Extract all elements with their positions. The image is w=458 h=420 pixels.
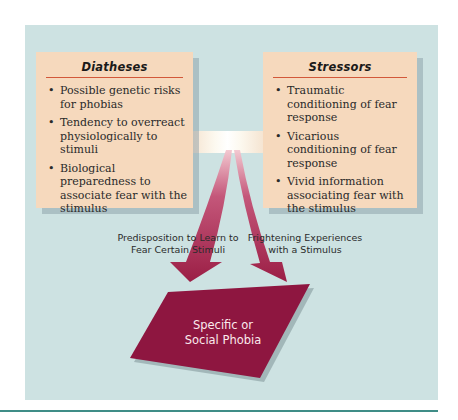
left-arrow-label: Predisposition to Learn to Fear Certain … xyxy=(108,232,248,256)
arrows-and-outcome-shapes xyxy=(0,0,458,420)
outcome-line-1: Specific or xyxy=(168,318,278,333)
left-arrow-icon xyxy=(170,150,232,282)
bottom-divider xyxy=(0,410,438,412)
right-arrow-label: Frightening Experiences with a Stimulus xyxy=(240,232,370,256)
right-arrow-icon xyxy=(234,150,287,282)
outcome-line-2: Social Phobia xyxy=(168,333,278,348)
outcome-label: Specific or Social Phobia xyxy=(168,318,278,348)
